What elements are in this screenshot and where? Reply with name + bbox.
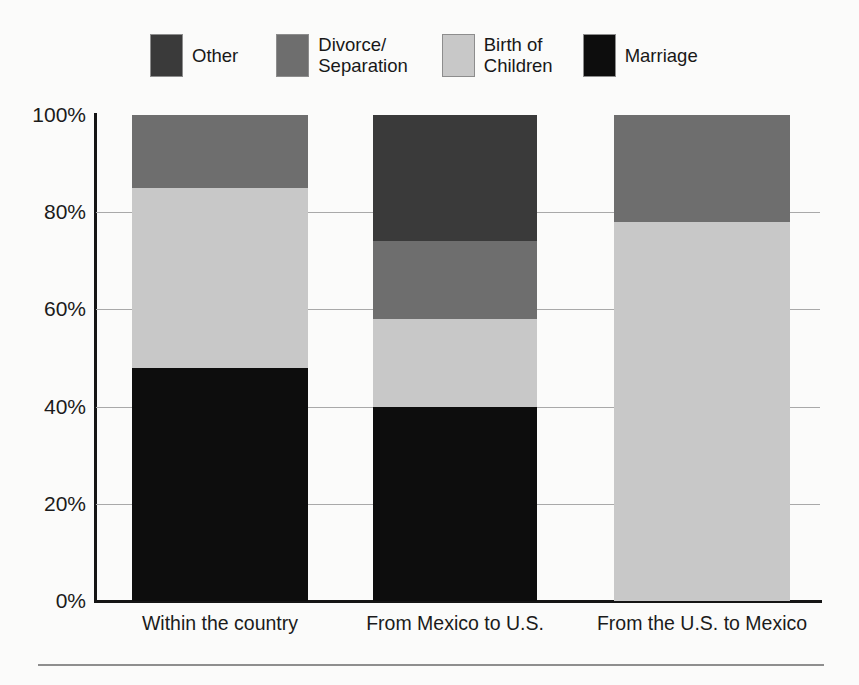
bar-group bbox=[132, 115, 308, 601]
y-tick-label: 20% bbox=[8, 492, 86, 516]
y-tick-label: 0% bbox=[8, 589, 86, 613]
bar-segment[interactable] bbox=[614, 222, 790, 601]
bar-segment[interactable] bbox=[373, 241, 537, 319]
bar-segment[interactable] bbox=[132, 188, 308, 368]
bar-segment[interactable] bbox=[614, 115, 790, 222]
bar-segment[interactable] bbox=[373, 407, 537, 601]
bar-group bbox=[373, 115, 537, 601]
bar-segment[interactable] bbox=[373, 115, 537, 241]
x-tick-label: From the U.S. to Mexico bbox=[574, 612, 830, 635]
x-tick-label: From Mexico to U.S. bbox=[333, 612, 577, 635]
footer-rule bbox=[38, 664, 824, 666]
chart-plot-wrapper: 0%20%40%60%80%100% Within the countryFro… bbox=[0, 0, 859, 685]
bar-group bbox=[614, 115, 790, 601]
x-tick-label: Within the country bbox=[92, 612, 348, 635]
stacked-bar[interactable] bbox=[132, 115, 308, 601]
bar-segment[interactable] bbox=[132, 368, 308, 601]
stacked-bar[interactable] bbox=[373, 115, 537, 601]
y-tick-label: 100% bbox=[8, 103, 86, 127]
y-tick-label: 60% bbox=[8, 297, 86, 321]
stacked-bar[interactable] bbox=[614, 115, 790, 601]
y-axis-labels: 0%20%40%60%80%100% bbox=[0, 115, 86, 601]
plot-area bbox=[96, 115, 820, 601]
y-tick-label: 80% bbox=[8, 200, 86, 224]
bar-segment[interactable] bbox=[132, 115, 308, 188]
chart-page: Other Divorce/ Separation Birth of Child… bbox=[0, 0, 859, 685]
y-tick-label: 40% bbox=[8, 395, 86, 419]
bar-segment[interactable] bbox=[373, 319, 537, 406]
